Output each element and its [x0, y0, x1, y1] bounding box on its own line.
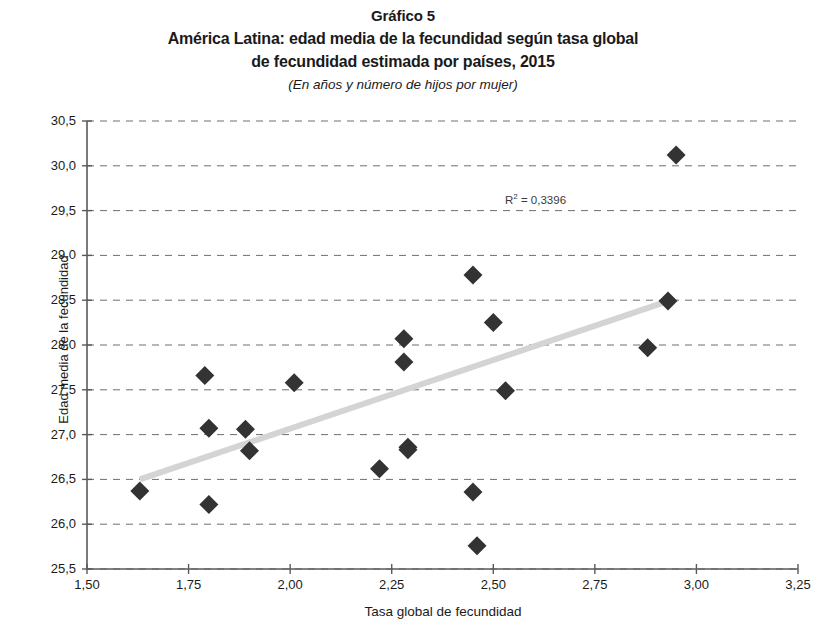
data-points-group [130, 146, 685, 556]
scatter-point [394, 353, 413, 372]
scatter-point [130, 482, 149, 501]
scatter-point [199, 495, 218, 514]
r-squared-value: = 0,3396 [518, 194, 566, 206]
x-tick-label: 3,00 [666, 578, 726, 591]
scatter-point [236, 420, 255, 439]
y-tick-label: 29,0 [30, 248, 76, 261]
y-tick-label: 30,0 [30, 159, 76, 172]
y-tick-label: 29,5 [30, 204, 76, 217]
y-tick-label: 26,5 [30, 472, 76, 485]
scatter-point [667, 146, 686, 165]
x-tick-label: 3,25 [768, 578, 815, 591]
x-tick-label: 1,50 [57, 578, 117, 591]
scatter-point [496, 381, 515, 400]
x-tick-label: 1,75 [159, 578, 219, 591]
scatter-point [468, 536, 487, 555]
scatter-point [285, 373, 304, 392]
scatter-point [463, 482, 482, 501]
y-tick-label: 30,5 [30, 114, 76, 127]
scatter-point [484, 313, 503, 332]
scatter-point [463, 266, 482, 285]
y-tick-label: 28,0 [30, 338, 76, 351]
chart-titles: Gráfico 5 América Latina: edad media de … [0, 6, 806, 94]
y-tick-label: 28,5 [30, 293, 76, 306]
gridlines-group [87, 121, 798, 569]
chart-title-line-2: de fecundidad estimada por países, 2015 [0, 50, 806, 73]
y-tick-label: 27,5 [30, 383, 76, 396]
scatter-point [195, 366, 214, 385]
y-tick-label: 27,0 [30, 428, 76, 441]
x-tick-label: 2,25 [362, 578, 422, 591]
chart-title-line-1: América Latina: edad media de la fecundi… [0, 27, 806, 50]
scatter-point [398, 440, 417, 459]
chart-subtitle: (En años y número de hijos por mujer) [0, 76, 806, 94]
y-tick-label: 26,0 [30, 517, 76, 530]
scatter-point [370, 459, 389, 478]
axis-ticks-group [82, 121, 798, 574]
y-tick-label: 25,5 [30, 562, 76, 575]
x-axis-title: Tasa global de fecundidad [87, 604, 799, 619]
figure-number: Gráfico 5 [0, 6, 806, 25]
scatter-point [658, 292, 677, 311]
x-tick-label: 2,00 [260, 578, 320, 591]
scatter-point [199, 419, 218, 438]
r-squared-annotation: R2 = 0,3396 [505, 192, 566, 206]
x-tick-label: 2,75 [565, 578, 625, 591]
scatter-point [394, 329, 413, 348]
scatter-point [638, 338, 657, 357]
x-tick-label: 2,50 [463, 578, 523, 591]
